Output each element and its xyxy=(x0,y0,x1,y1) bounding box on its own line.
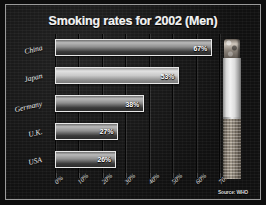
bar-value-label: 67% xyxy=(194,44,207,51)
bar-japan: 53% xyxy=(55,67,179,84)
bar-row: 26% xyxy=(55,151,219,168)
bar-value-label: 38% xyxy=(126,100,139,107)
cigarette-icon xyxy=(223,39,241,179)
chart-plate: Smoking rates for 2002 (Men) 67%53%38%27… xyxy=(5,4,261,200)
bar-germany: 38% xyxy=(55,95,144,112)
bar-row: 67% xyxy=(55,39,219,56)
bar-china: 67% xyxy=(55,39,212,56)
bar-row: 27% xyxy=(55,123,219,140)
x-axis: 0%10%20%30%40%50%60%70% xyxy=(55,173,219,200)
source-caption: Source: WHO xyxy=(214,189,252,195)
bar-value-label: 27% xyxy=(100,128,113,135)
plot-area: 67%53%38%27%26% xyxy=(55,34,219,173)
chart-figure: Smoking rates for 2002 (Men) 67%53%38%27… xyxy=(0,0,266,205)
cigarette-paper xyxy=(223,58,241,120)
cigarette-ash xyxy=(224,39,240,59)
bar-uk: 27% xyxy=(55,123,118,140)
category-label-usa: USA xyxy=(28,155,43,167)
category-label-germany: Germany xyxy=(14,99,43,114)
bar-usa: 26% xyxy=(55,151,116,168)
bar-row: 38% xyxy=(55,95,219,112)
chart-title: Smoking rates for 2002 (Men) xyxy=(6,14,260,28)
bar-value-label: 53% xyxy=(161,72,174,79)
category-label-japan: Japan xyxy=(23,71,43,84)
category-label-china: China xyxy=(23,44,43,57)
category-label-uk: U.K. xyxy=(27,127,43,139)
bar-value-label: 26% xyxy=(97,156,110,163)
bar-row: 53% xyxy=(55,67,219,84)
cigarette-panel: Source: WHO xyxy=(214,35,252,200)
cigarette-filter xyxy=(223,119,241,179)
